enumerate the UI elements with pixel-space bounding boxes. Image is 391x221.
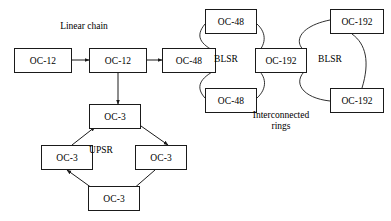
node-oc48-north: OC-48 — [205, 9, 257, 34]
arc-blsr-right-sw — [300, 70, 330, 101]
node-label: OC-192 — [341, 17, 372, 27]
node-label: OC-192 — [341, 96, 372, 106]
node-label: OC-3 — [56, 153, 78, 163]
node-oc192-south: OC-192 — [330, 88, 384, 113]
link-oc3-top-to-oc3-right — [141, 126, 168, 145]
node-label: OC-12 — [30, 56, 56, 66]
node-oc192-north: OC-192 — [330, 9, 384, 34]
network-topology-diagram: OC-12OC-12OC-48OC-48OC-48OC-192OC-192OC-… — [0, 0, 391, 221]
node-label: OC-3 — [150, 153, 172, 163]
node-label: OC-3 — [103, 194, 125, 204]
node-label: OC-3 — [104, 112, 126, 122]
blsr-left-label: BLSR — [209, 54, 243, 64]
node-oc48-west: OC-48 — [162, 48, 216, 73]
node-label: OC-48 — [218, 96, 244, 106]
link-oc3-left-to-oc3-top — [72, 127, 95, 145]
arc-blsr-left-se — [257, 69, 265, 98]
node-oc3-bottom: OC-3 — [88, 186, 140, 211]
node-oc12-center: OC-12 — [89, 48, 147, 73]
node-label: OC-48 — [176, 56, 202, 66]
arc-blsr-right-ne — [352, 34, 366, 88]
node-label: OC-192 — [265, 56, 296, 66]
upsr-label: UPSR — [84, 145, 118, 155]
node-oc3-right: OC-3 — [135, 145, 187, 170]
linear-chain-label: Linear chain — [48, 21, 120, 32]
node-oc3-top: OC-3 — [89, 104, 141, 129]
node-oc12-left: OC-12 — [14, 48, 72, 73]
node-label: OC-48 — [218, 17, 244, 27]
node-oc192-center: OC-192 — [255, 48, 307, 73]
blsr-right-label: BLSR — [313, 54, 347, 64]
node-label: OC-12 — [105, 56, 131, 66]
interconnected-rings-label: Interconnected rings — [248, 110, 314, 131]
